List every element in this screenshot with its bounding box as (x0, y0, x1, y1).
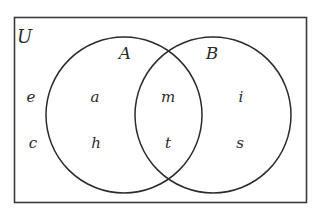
element-label: i (239, 88, 244, 106)
set-b-label: B (205, 43, 219, 63)
element-label: a (91, 88, 100, 106)
element-label: c (29, 134, 38, 152)
set-a-label: A (117, 43, 131, 63)
element-label: s (236, 134, 244, 152)
venn-diagram: U A B e c a h m t i s (0, 0, 323, 221)
element-label: m (161, 88, 175, 106)
element-label: t (165, 134, 172, 152)
universe-label: U (17, 26, 33, 47)
venn-diagram-canvas: U A B e c a h m t i s (0, 0, 323, 221)
element-label: h (91, 134, 101, 152)
element-label: e (27, 88, 36, 106)
